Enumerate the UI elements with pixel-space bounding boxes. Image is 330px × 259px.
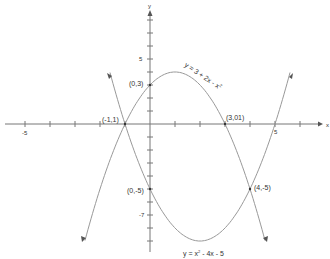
y-axis: y 5 -7 [139,3,153,252]
point-label-3-01: (3,01) [226,114,244,122]
graph-plot: x -5 5 y 5 -7 (-1,1) (0,3) (3,01) (0,-5)… [0,0,330,259]
point-label-0-neg5: (0,-5) [127,187,144,195]
point-label-neg1-1: (-1,1) [102,116,119,124]
curve-parabola-top [85,72,265,241]
curve-label-bottom: y = x2 - 4x - 5 [183,249,224,258]
x-tick-label-5: 5 [274,129,278,135]
x-axis-arrow-icon [318,122,323,127]
x-tick-label-neg5: -5 [22,130,28,136]
y-axis-label: y [148,3,151,9]
x-axis-label: x [326,122,329,128]
curve-arrow-icons [81,73,293,242]
point-label-4-neg5: (4,-5) [254,184,271,192]
curve-parabola-bottom [110,73,290,242]
y-tick-label-neg7: -7 [139,212,145,218]
point-label-0-3: (0,3) [129,80,143,88]
y-tick-label-5: 5 [139,56,143,62]
x-axis: x -5 5 [5,121,329,136]
y-axis-arrow-icon [148,10,153,16]
